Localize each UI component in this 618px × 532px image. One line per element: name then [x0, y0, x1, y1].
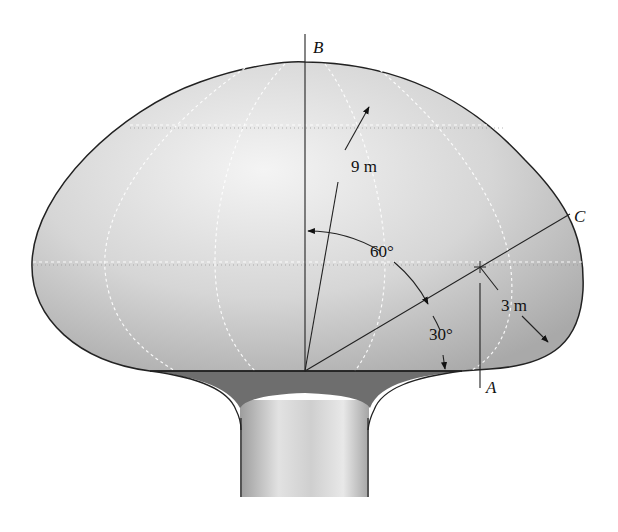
label-3m: 3 m: [501, 296, 527, 315]
label-b: B: [313, 38, 324, 57]
label-9m: 9 m: [351, 157, 377, 176]
label-a: A: [485, 378, 497, 397]
support-column: [240, 400, 369, 497]
water-tower-diagram: B 9 m 60° C 3 m 30° A: [0, 0, 618, 532]
label-30deg: 30°: [429, 325, 453, 344]
label-60deg: 60°: [370, 242, 394, 261]
label-c: C: [574, 207, 586, 226]
